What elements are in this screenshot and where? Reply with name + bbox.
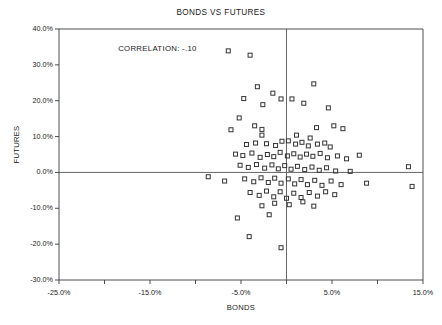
data-point (307, 191, 311, 195)
data-point (332, 124, 336, 128)
y-tick-label: 0.0% (7, 167, 53, 176)
data-point (273, 176, 277, 180)
plot-area (0, 0, 442, 325)
data-point (318, 151, 322, 155)
correlation-annotation: CORRELATION: -.10 (118, 44, 197, 53)
data-point (365, 181, 369, 185)
data-point (242, 97, 246, 101)
data-point (272, 195, 276, 199)
data-point (238, 163, 242, 167)
x-axis-title: BONDS (59, 303, 423, 312)
data-point (237, 116, 241, 120)
x-tick-label: -15.0% (125, 288, 175, 297)
data-point (292, 152, 296, 156)
data-point (264, 142, 268, 146)
data-point (260, 204, 264, 208)
data-point (308, 136, 312, 140)
data-point (226, 49, 230, 53)
data-point (339, 183, 343, 187)
data-point (294, 142, 298, 146)
data-point (298, 155, 302, 159)
data-point (267, 213, 271, 217)
x-tick-label: -5.0% (216, 288, 266, 297)
data-point (295, 133, 299, 137)
data-point (246, 165, 250, 169)
data-point (258, 155, 262, 159)
data-point (341, 127, 345, 131)
data-point (263, 166, 267, 170)
data-point (279, 246, 283, 250)
data-point-group (206, 49, 414, 250)
data-point (320, 183, 324, 187)
data-point (278, 150, 282, 154)
x-tick-label: 15.0% (398, 288, 442, 297)
data-point (293, 182, 297, 186)
data-point (295, 164, 299, 168)
data-point (259, 176, 263, 180)
data-point (264, 189, 268, 193)
data-point (328, 145, 332, 149)
data-point (272, 155, 276, 159)
data-point (260, 133, 264, 137)
data-point (278, 190, 282, 194)
data-point (261, 103, 265, 107)
data-point (279, 97, 283, 101)
data-point (287, 203, 291, 207)
y-tick-label: -30.0% (7, 275, 53, 284)
data-point (244, 142, 248, 146)
data-point (315, 194, 319, 198)
data-point (289, 167, 293, 171)
data-point (266, 180, 270, 184)
data-point (270, 163, 274, 167)
y-axis-title: FUTURES (12, 115, 21, 175)
data-point (279, 181, 283, 185)
y-tick-label: -10.0% (7, 203, 53, 212)
data-point (300, 140, 304, 144)
data-point (315, 142, 319, 146)
data-point (315, 126, 319, 130)
data-point (345, 157, 349, 161)
data-point (290, 97, 294, 101)
data-point (260, 127, 264, 131)
data-point (406, 165, 410, 169)
data-point (312, 204, 316, 208)
data-point (325, 156, 329, 160)
y-tick-label: -20.0% (7, 239, 53, 248)
data-point (271, 91, 275, 95)
data-point (326, 106, 330, 110)
data-point (325, 166, 329, 170)
data-point (248, 53, 252, 57)
data-point (311, 154, 315, 158)
data-point (301, 200, 305, 204)
data-point (285, 154, 289, 158)
data-point (229, 128, 233, 132)
data-point (305, 183, 309, 187)
data-point (273, 201, 277, 205)
data-point (276, 167, 280, 171)
data-point (299, 196, 303, 200)
data-point (313, 178, 317, 182)
data-point (241, 154, 245, 158)
data-point (274, 144, 278, 148)
data-point (292, 191, 296, 195)
data-point (299, 178, 303, 182)
data-point (254, 141, 258, 145)
y-tick-label: 20.0% (7, 96, 53, 105)
x-tick-label: -25.0% (34, 288, 84, 297)
data-point (255, 85, 259, 89)
data-point (305, 152, 309, 156)
axis-tick-marks (55, 29, 423, 284)
data-point (252, 180, 256, 184)
data-point (310, 165, 314, 169)
scatter-chart: BONDS VS FUTURES FUTURES BONDS -30.0%-20… (0, 0, 442, 325)
data-point (253, 124, 257, 128)
data-point (234, 152, 238, 156)
data-point (410, 184, 414, 188)
data-point (254, 163, 258, 167)
data-point (306, 144, 310, 148)
data-point (247, 235, 251, 239)
data-point (357, 153, 361, 157)
data-point (333, 193, 337, 197)
data-point (324, 190, 328, 194)
data-point (223, 179, 227, 183)
